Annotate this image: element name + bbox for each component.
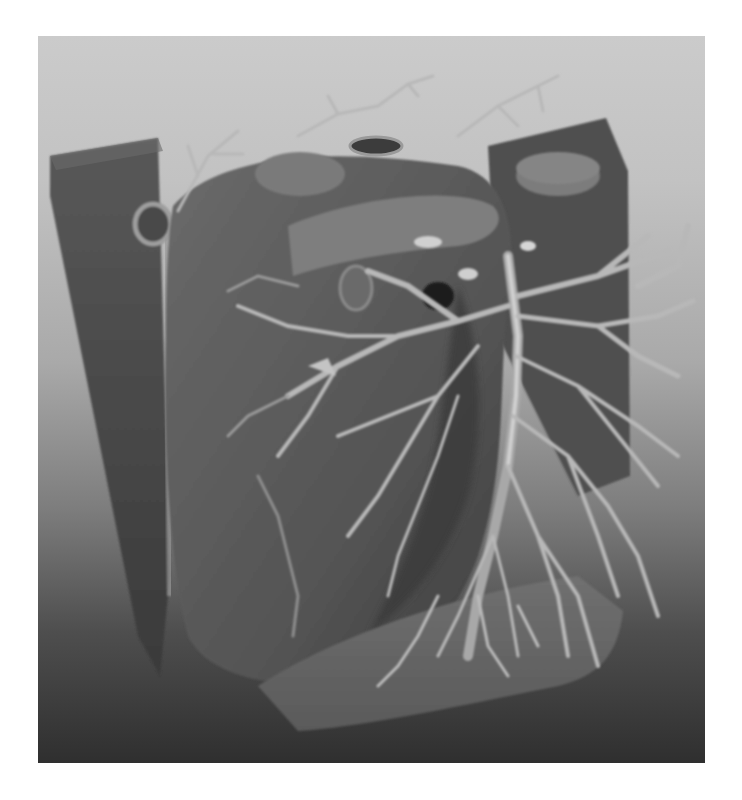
volume-rendering-frame [38,36,705,763]
medical-3d-rendering [38,36,705,763]
left-slab [50,138,171,676]
